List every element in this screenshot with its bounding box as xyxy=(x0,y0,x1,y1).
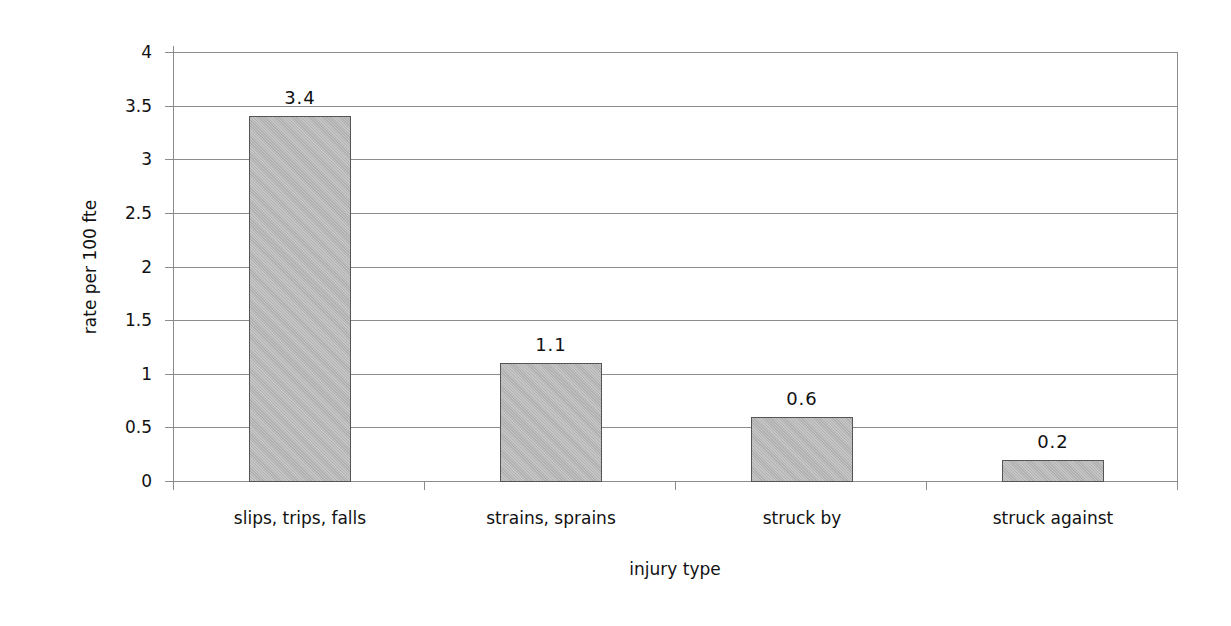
x-tick-mark xyxy=(173,481,174,490)
x-tick-mark xyxy=(1177,481,1178,490)
data-label: 3.4 xyxy=(260,88,340,108)
x-tick-mark xyxy=(675,481,676,490)
y-tick-mark xyxy=(165,267,173,268)
bar xyxy=(751,417,853,482)
y-tick-label: 2 xyxy=(112,257,152,277)
y-tick-label: 1 xyxy=(112,364,152,384)
bar-chart: rate per 100 fte injury type 00.511.522.… xyxy=(0,0,1231,626)
y-tick-mark xyxy=(165,481,173,482)
x-tick-label: struck against xyxy=(943,508,1163,528)
y-tick-mark xyxy=(165,213,173,214)
data-label: 1.1 xyxy=(511,335,591,355)
x-tick-mark xyxy=(424,481,425,490)
gridline xyxy=(173,52,1177,53)
y-tick-label: 0.5 xyxy=(112,417,152,437)
y-tick-label: 3.5 xyxy=(112,96,152,116)
bar xyxy=(1002,460,1104,482)
y-tick-mark xyxy=(165,106,173,107)
y-tick-label: 2.5 xyxy=(112,203,152,223)
y-axis-title: rate per 100 fte xyxy=(80,167,100,367)
y-tick-mark xyxy=(165,52,173,53)
bar xyxy=(249,116,351,482)
y-tick-label: 3 xyxy=(112,149,152,169)
y-tick-mark xyxy=(165,374,173,375)
x-tick-label: struck by xyxy=(692,508,912,528)
plot-right-border xyxy=(1177,52,1178,489)
y-tick-label: 1.5 xyxy=(112,310,152,330)
x-tick-label: strains, sprains xyxy=(441,508,661,528)
x-tick-mark xyxy=(926,481,927,490)
bar xyxy=(500,363,602,482)
y-tick-label: 0 xyxy=(112,471,152,491)
x-axis-title: injury type xyxy=(575,559,775,579)
y-tick-mark xyxy=(165,159,173,160)
y-tick-mark xyxy=(165,427,173,428)
data-label: 0.6 xyxy=(762,389,842,409)
y-tick-mark xyxy=(165,320,173,321)
x-tick-label: slips, trips, falls xyxy=(190,508,410,528)
data-label: 0.2 xyxy=(1013,432,1093,452)
y-tick-label: 4 xyxy=(112,42,152,62)
